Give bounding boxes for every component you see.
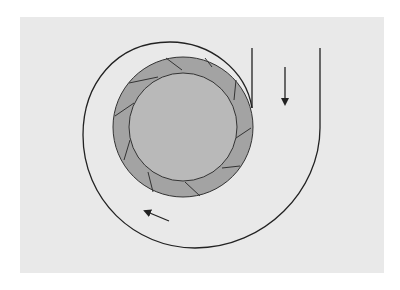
volute-flow-arrow-icon <box>145 211 169 221</box>
impeller-hub <box>129 73 237 181</box>
centrifugal-pump-diagram <box>0 0 400 290</box>
